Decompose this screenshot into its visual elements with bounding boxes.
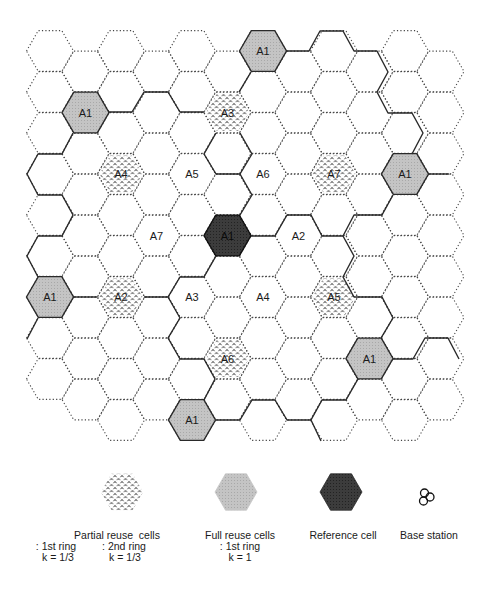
grid-cell [311,195,358,236]
cell-plain-a6: A6 [256,168,269,180]
grid-cell [133,338,180,379]
boundary-edge [343,195,393,338]
grid-cell [133,256,180,297]
grid-cell [204,256,251,297]
cell-partial-a2: A2 [100,278,143,315]
grid-cell [382,400,429,441]
boundary-edge [144,297,215,400]
grid-cell [417,379,464,420]
cell-reuse-diagram: A1A1A3A4A5A6A7A1A7A1A2A1A2A3A4A5A6A1A1 [0,0,491,589]
cell-plain-a4: A4 [256,291,269,303]
grid-cell [240,113,287,154]
legend-swatch-reference [320,474,362,510]
boundary-edge [204,133,252,174]
legend-swatches [101,474,434,510]
grid-cell [311,236,358,277]
grid-cell [98,236,145,277]
grid-cell [62,338,109,379]
cell-label: A5 [327,291,340,303]
cell-label: A1 [185,414,198,426]
legend-base-station-title: Base station [390,530,468,541]
cell-label: A3 [185,291,198,303]
grid-cell [417,297,464,338]
grid-cell [346,92,393,133]
cell-label: A1 [398,168,411,180]
grid-cell [275,92,322,133]
grid-cell [382,236,429,277]
cell-plain-a7: A7 [150,230,163,242]
cell-label: A4 [114,168,127,180]
cell-label: A1 [79,107,92,119]
boundary-edge [311,379,358,441]
grid-cell [62,51,109,92]
grid-cell [311,113,358,154]
grid-cell [27,31,74,72]
boundary-edge [27,318,38,339]
cell-reference-a1: A1 [204,215,251,256]
grid-cell [204,297,251,338]
grid-cell [275,338,322,379]
grid-cell [382,72,429,113]
grid-cell [27,359,74,400]
cell-partial-a4: A4 [100,155,143,192]
legend-swatch-partial [101,474,143,510]
grid-cell [346,51,393,92]
cell-label: A1 [256,45,269,57]
grid-cell [275,174,322,215]
cell-label: A3 [221,107,234,119]
cell-plain-a2: A2 [292,230,305,242]
boundary-edge [108,92,204,112]
cell-label: A1 [43,291,56,303]
grid-cell [27,236,74,277]
grid-cell [275,133,322,174]
grid-cell [98,195,145,236]
boundary-edge [239,72,251,92]
grid-cell [27,154,74,195]
cell-label: A6 [256,168,269,180]
grid-cell [275,297,322,338]
grid-cell [382,277,429,318]
grid-cell [27,195,74,236]
grid-cell [417,256,464,297]
base-station-icon [420,489,435,505]
boundary-edge [393,338,459,359]
cell-full-a1: A1 [27,277,74,318]
cell-label: A7 [150,230,163,242]
grid-cell [133,297,180,338]
grid-cell [382,113,429,154]
cell-label: A7 [327,168,340,180]
grid-cell [98,400,145,441]
grid-cell [133,174,180,215]
grid-cell [98,359,145,400]
cell-plain-a5: A5 [185,168,198,180]
cell-plain-a3: A3 [185,291,198,303]
cell-partial-a3: A3 [206,94,249,131]
cell-full-a1: A1 [240,31,287,72]
cell-label: A2 [292,230,305,242]
legend-swatch-full [215,474,257,510]
cell-full-a1: A1 [169,400,216,441]
grid-cell [382,195,429,236]
grid-cell [311,72,358,113]
legend-full-k: k = 1 [215,552,265,563]
grid-cell [169,31,216,72]
grid-cell [417,338,464,379]
grid-cell [417,92,464,133]
grid-cell [417,215,464,256]
legend-reference-title: Reference cell [300,530,386,541]
cell-full-a1: A1 [382,154,429,195]
grid-cell [169,359,216,400]
legend-partial-k2: k = 1/3 [100,552,150,563]
boundary-edge [286,31,423,154]
grid-cell [346,379,393,420]
grid-cell [133,51,180,92]
cell-label: A6 [221,353,234,365]
grid-cell [346,215,393,256]
cell-label: A5 [185,168,198,180]
grid-cell [417,51,464,92]
grid-cell [240,72,287,113]
grid-cell [240,359,287,400]
cell-label: A1 [221,230,234,242]
cell-full-a1: A1 [346,338,393,379]
boundary-edge [216,400,311,420]
